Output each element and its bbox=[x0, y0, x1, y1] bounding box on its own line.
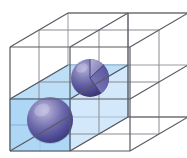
grid-spheres-illustration bbox=[0, 0, 187, 158]
sphere-upper-wedge bbox=[71, 59, 109, 97]
figure-canvas: 3D grid of cells with embedded spheres s… bbox=[0, 0, 187, 158]
